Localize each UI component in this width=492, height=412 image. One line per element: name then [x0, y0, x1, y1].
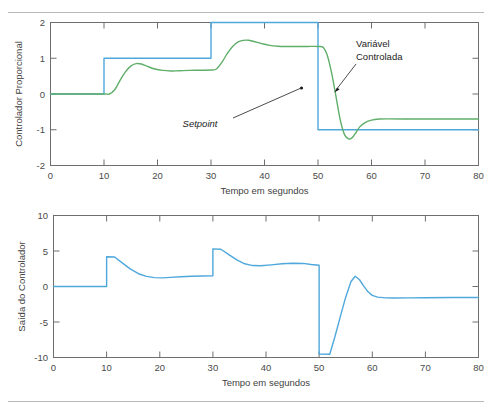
- chart1-ytick-2: 2: [40, 17, 45, 28]
- chart2-xtick-80: 80: [473, 362, 484, 373]
- chart1-setpoint-label: Setpoint: [183, 118, 218, 129]
- chart1-xtick-30: 30: [206, 170, 217, 181]
- chart1-xtick-60: 60: [366, 170, 377, 181]
- chart1-annotation-controlled-variable: Variável Controlada: [334, 38, 403, 92]
- chart2-x-ticks: [54, 216, 479, 358]
- chart1-x-axis-title: Tempo em segundos: [220, 185, 308, 196]
- chart1-annotation-setpoint: Setpoint: [183, 86, 304, 129]
- chart2-xtick-30: 30: [208, 362, 219, 373]
- chart2-xtick-20: 20: [155, 362, 166, 373]
- chart1-cv-label-line2: Controlada: [356, 51, 403, 62]
- chart2-y-ticks: [54, 216, 479, 358]
- chart1-xtick-40: 40: [259, 170, 270, 181]
- chart2-series-controller-output: [54, 249, 479, 354]
- chart2-xtick-70: 70: [420, 362, 431, 373]
- control-system-response-figure: 2 1 0 -1 -2: [0, 0, 492, 412]
- chart2-xtick-60: 60: [367, 362, 378, 373]
- chart1-xtick-0: 0: [48, 170, 53, 181]
- figure-page: 2 1 0 -1 -2: [0, 0, 492, 412]
- chart1-xtick-20: 20: [152, 170, 163, 181]
- chart2-plot-frame: [54, 216, 479, 358]
- chart2-xtick-10: 10: [101, 362, 112, 373]
- chart1-ytick-1: 1: [40, 53, 45, 64]
- chart1-series-setpoint: [51, 23, 479, 130]
- chart1-xtick-50: 50: [313, 170, 324, 181]
- chart2-y-axis-title: Saída do Controlador: [16, 241, 27, 331]
- chart1-xtick-80: 80: [473, 170, 484, 181]
- chart2-xtick-0: 0: [51, 362, 56, 373]
- chart2-x-axis-title: Tempo em segundos: [222, 377, 310, 388]
- chart1-ytick-neg1: -1: [37, 124, 45, 135]
- chart1-ytick-0: 0: [40, 89, 45, 100]
- chart2-ytick-neg10: -10: [34, 352, 48, 363]
- chart1-series-controlled-variable: [51, 40, 479, 139]
- chart1-xtick-10: 10: [99, 170, 110, 181]
- chart1-y-axis-title: Controlador Proporcional: [13, 41, 24, 147]
- chart2-ytick-0: 0: [43, 281, 48, 292]
- chart1-cv-label-line1: Variável: [356, 38, 390, 49]
- chart-controller-output: 10 5 0 -5 -10: [16, 210, 484, 388]
- chart2-ytick-neg5: -5: [40, 317, 48, 328]
- chart1-xtick-70: 70: [420, 170, 431, 181]
- chart2-xtick-50: 50: [314, 362, 325, 373]
- chart1-ytick-neg2: -2: [37, 160, 45, 171]
- chart2-ytick-10: 10: [37, 210, 48, 221]
- chart2-xtick-40: 40: [261, 362, 272, 373]
- chart-proportional-controller: 2 1 0 -1 -2: [13, 17, 484, 196]
- chart2-ytick-5: 5: [43, 246, 48, 257]
